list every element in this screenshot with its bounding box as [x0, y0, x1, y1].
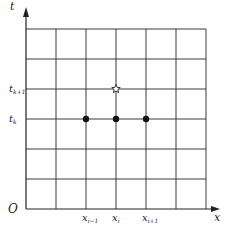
- x-axis-label: x: [214, 211, 221, 224]
- axes: [23, 7, 220, 212]
- grid-node-dot: [83, 116, 89, 122]
- t-axis-arrow-icon: [23, 7, 29, 17]
- star-node-icon: [112, 85, 121, 93]
- x-tick-label: xi−1: [82, 212, 98, 224]
- stencil-diagram: xtOxi−1xixi+1tktk+1: [0, 0, 230, 234]
- axis-labels: xtOxi−1xixi+1tktk+1: [8, 0, 221, 224]
- x-tick-label: xi+1: [142, 212, 158, 224]
- t-tick-label: tk+1: [9, 83, 26, 95]
- t-axis-label: t: [10, 0, 15, 13]
- grid-node-dot: [113, 116, 119, 122]
- x-tick-label: xi: [112, 212, 120, 224]
- origin-label: O: [8, 202, 18, 216]
- t-tick-label: tk: [9, 113, 17, 125]
- grid-node-dot: [143, 116, 149, 122]
